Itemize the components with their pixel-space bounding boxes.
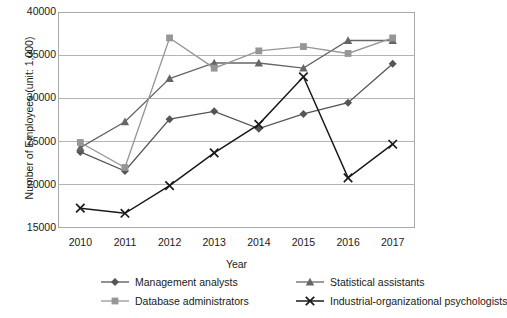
- data-point-marker: [112, 298, 119, 305]
- legend-item-label: Industrial-organizational psychologists: [330, 295, 507, 307]
- data-point-marker: [165, 181, 173, 189]
- data-point-marker: [122, 164, 129, 171]
- legend-item[interactable]: Statistical assistants: [295, 276, 425, 288]
- x-axis-tick-label: 2014: [236, 236, 282, 248]
- legend-item[interactable]: Management analysts: [100, 276, 238, 288]
- x-axis-tick-label: 2013: [191, 236, 237, 248]
- data-point-marker: [211, 65, 218, 72]
- x-axis-tick-label: 2015: [280, 236, 326, 248]
- legend-item-label: Database administrators: [135, 295, 249, 307]
- y-axis-tick-label: 40000: [4, 6, 56, 16]
- square-marker-icon: [100, 295, 130, 307]
- data-point-marker: [300, 43, 307, 50]
- cross-marker-icon: [295, 295, 325, 307]
- data-point-marker: [77, 139, 84, 146]
- y-axis-tick-label: 20000: [4, 179, 56, 189]
- data-point-marker: [344, 174, 352, 182]
- y-axis-tick-label: 35000: [4, 49, 56, 59]
- legend-item[interactable]: Industrial-organizational psychologists: [295, 295, 507, 307]
- data-point-marker: [255, 47, 262, 54]
- data-point-marker: [299, 73, 307, 81]
- series-line: [80, 64, 392, 171]
- legend-item-label: Statistical assistants: [330, 276, 425, 288]
- x-axis-tick-label: 2017: [370, 236, 416, 248]
- plot-series-canvas: [58, 12, 415, 228]
- x-axis-tick-label: 2016: [325, 236, 371, 248]
- data-point-marker: [389, 35, 396, 42]
- legend-item-label: Management analysts: [135, 276, 238, 288]
- data-point-marker: [299, 110, 307, 118]
- y-axis-tick-label: 25000: [4, 136, 56, 146]
- x-axis-tick-label: 2010: [57, 236, 103, 248]
- diamond-marker-icon: [100, 276, 130, 288]
- data-point-marker: [111, 278, 119, 286]
- data-point-marker: [345, 50, 352, 57]
- x-axis-tick-label: 2012: [147, 236, 193, 248]
- series-line: [80, 77, 392, 214]
- y-axis-tick-labels: 150002000025000300003500040000: [0, 0, 56, 240]
- data-point-marker: [166, 35, 173, 42]
- data-point-marker: [210, 107, 218, 115]
- triangle-marker-icon: [295, 276, 325, 288]
- data-point-marker: [210, 149, 218, 157]
- x-axis-title: Year: [58, 258, 415, 270]
- chart-legend: Management analystsStatistical assistant…: [40, 276, 430, 316]
- y-axis-tick-label: 15000: [4, 222, 56, 232]
- x-axis-tick-label: 2011: [102, 236, 148, 248]
- y-axis-tick-label: 30000: [4, 92, 56, 102]
- legend-item[interactable]: Database administrators: [100, 295, 249, 307]
